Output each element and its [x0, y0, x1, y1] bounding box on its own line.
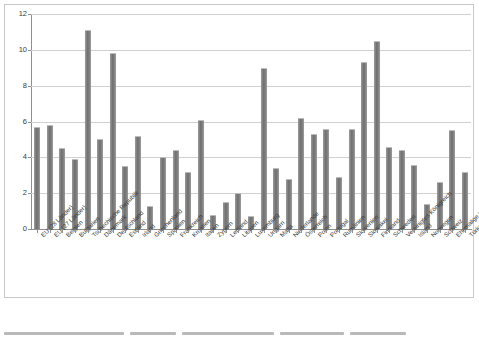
bar — [135, 136, 141, 229]
y-axis-tick-label: 10 — [19, 46, 27, 54]
x-axis-tick-mark — [377, 230, 378, 233]
bar-slot — [408, 14, 421, 229]
y-axis-tick-label: 2 — [23, 189, 27, 197]
bar-slot — [106, 14, 119, 229]
x-axis-tick-mark — [163, 230, 164, 233]
bar-slot — [132, 14, 145, 229]
bar — [122, 166, 128, 229]
bar-slot — [446, 14, 459, 229]
x-axis-tick-mark — [465, 230, 466, 233]
bar-slot — [257, 14, 270, 229]
x-axis-tick-mark — [289, 230, 290, 233]
bar — [298, 118, 304, 229]
bar — [336, 177, 342, 229]
bar — [223, 202, 229, 229]
x-axis-tick-mark — [339, 230, 340, 233]
bar-slot — [69, 14, 82, 229]
y-axis-tick-label: 0 — [23, 225, 27, 233]
x-axis-tick-mark — [264, 230, 265, 233]
bar — [198, 120, 204, 229]
bar — [72, 159, 78, 229]
bar — [449, 130, 455, 229]
bar — [59, 148, 65, 229]
caption-line-2 — [130, 332, 176, 335]
x-axis-tick-mark — [427, 230, 428, 233]
bar-slot — [421, 14, 434, 229]
bar-slot — [182, 14, 195, 229]
bar-slot — [119, 14, 132, 229]
bar — [361, 62, 367, 229]
caption-line-5 — [350, 332, 406, 335]
chart-container: 024681012 EU (28 Länder)EU (27 Länder)Be… — [0, 0, 479, 354]
bar — [210, 215, 216, 229]
x-axis-tick-mark — [314, 230, 315, 233]
x-axis-tick-mark — [251, 230, 252, 233]
x-axis-tick-mark — [326, 230, 327, 233]
x-axis-tick-mark — [389, 230, 390, 233]
y-axis-tick-label: 6 — [23, 118, 27, 126]
bar-slot — [157, 14, 170, 229]
bar-slot — [345, 14, 358, 229]
x-axis-tick-mark — [414, 230, 415, 233]
x-axis-tick-mark — [113, 230, 114, 233]
bar-slot — [56, 14, 69, 229]
bar — [47, 125, 53, 229]
y-axis-tick-mark — [28, 122, 31, 123]
bar-slot — [458, 14, 471, 229]
y-axis-tick-labels: 024681012 — [0, 0, 27, 245]
bar — [424, 204, 430, 229]
y-axis-tick-mark — [28, 193, 31, 194]
x-axis-tick-mark — [150, 230, 151, 233]
bar-slot — [207, 14, 220, 229]
bar — [261, 68, 267, 229]
bar-slot — [245, 14, 258, 229]
bar — [173, 150, 179, 229]
bar — [185, 172, 191, 229]
bar-slot — [270, 14, 283, 229]
x-axis-tick-mark — [352, 230, 353, 233]
x-axis-tick-mark — [125, 230, 126, 233]
bar-slot — [433, 14, 446, 229]
bar — [399, 150, 405, 229]
x-axis-tick-mark — [276, 230, 277, 233]
x-axis-tick-mark — [62, 230, 63, 233]
chart-plot-area — [31, 14, 471, 229]
bar — [311, 134, 317, 229]
bar — [386, 147, 392, 229]
x-axis-tick-mark — [188, 230, 189, 233]
bar-slot — [396, 14, 409, 229]
bar — [110, 53, 116, 229]
bar-slot — [282, 14, 295, 229]
x-axis-tick-mark — [75, 230, 76, 233]
x-axis-tick-mark — [213, 230, 214, 233]
caption-line-4 — [280, 332, 344, 335]
bar — [235, 193, 241, 229]
x-axis-tick-mark — [226, 230, 227, 233]
bar-slot — [194, 14, 207, 229]
bar — [160, 157, 166, 229]
y-axis-tick-label: 4 — [23, 154, 27, 162]
y-axis-tick-label: 8 — [23, 82, 27, 90]
bar — [147, 206, 153, 229]
bar — [286, 179, 292, 229]
bar — [273, 168, 279, 229]
bar — [437, 182, 443, 229]
y-axis-tick-mark — [28, 14, 31, 15]
bar-slot — [94, 14, 107, 229]
bar — [85, 30, 91, 229]
bar-slot — [358, 14, 371, 229]
bar-slot — [144, 14, 157, 229]
bar-slot — [308, 14, 321, 229]
x-axis-tick-mark — [176, 230, 177, 233]
bar — [34, 127, 40, 229]
x-axis-tick-mark — [100, 230, 101, 233]
x-axis-tick-mark — [440, 230, 441, 233]
bar-slot — [320, 14, 333, 229]
bar-slot — [333, 14, 346, 229]
y-axis-tick-mark — [28, 157, 31, 158]
bar-slot — [370, 14, 383, 229]
bar — [349, 129, 355, 229]
x-axis-tick-mark — [402, 230, 403, 233]
chart-caption — [4, 332, 474, 340]
bar-slot — [383, 14, 396, 229]
